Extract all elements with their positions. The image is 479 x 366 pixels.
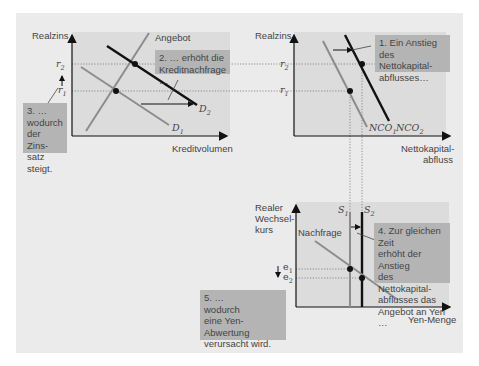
r2-label: r2: [56, 58, 65, 72]
nco2-label: NCO2: [396, 122, 424, 136]
s2-label: S2: [364, 204, 375, 218]
nco-r2-label: r2: [280, 58, 289, 72]
callout-5: 5. … wodurch eine Yen-Abwertung verursac…: [200, 290, 286, 340]
callout-2: 2. … erhöht die Kreditnachfrage …: [155, 50, 230, 74]
r1-label: r1: [58, 84, 67, 98]
callout-4: 4. Zur gleichen Zeit erhöht der Anstieg …: [374, 223, 450, 283]
nco-r1-label: r1: [280, 84, 289, 98]
loanable-y-axis-label: Realzins: [32, 30, 68, 41]
supply-label: Angebot: [155, 32, 190, 43]
nco-y-axis-label: Realzins: [255, 30, 291, 41]
callout-1: 1. Ein Anstieg des Nettokapital- abfluss…: [375, 35, 450, 72]
e2-label: e2: [283, 271, 293, 285]
callout-3: 3. … wodurch der Zins- satz steigt.: [23, 103, 67, 153]
nco1-label: NCO1: [369, 122, 397, 136]
s1-label: S1: [338, 204, 349, 218]
loanable-x-axis-label: Kreditvolumen: [172, 143, 233, 154]
fx-y-axis-label: Realer Wechsel- kurs: [255, 202, 294, 235]
nco-x-axis-label: Nettokapital- abfluss: [401, 143, 453, 165]
d1-label: D1: [172, 122, 184, 136]
fx-demand-label: Nachfrage: [298, 227, 342, 238]
d2-label: D2: [199, 103, 211, 117]
